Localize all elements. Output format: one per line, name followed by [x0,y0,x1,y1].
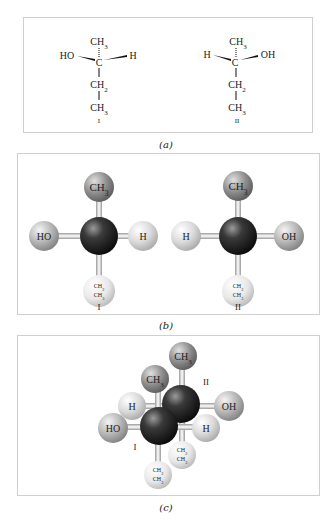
panel-b: CH3 HO H CH2 CH3 I CH3 H OH CH2 CH3 II [29,171,304,312]
isomer-label: I [98,302,101,312]
central-carbon: C [232,57,239,68]
back-hydroxyl-label: OH [222,401,236,412]
isomer-label: I [98,117,101,125]
hydrogen-atom: H [129,50,136,61]
caption-c: (c) [159,502,172,513]
methyl-group-bottom: CH3 [228,102,246,117]
carbon-ball [219,217,257,255]
isomer-label: II [235,302,241,312]
panel-c: CH3 CH3 II H OH HO H I CH2 CH3 CH2 CH3 [98,342,244,489]
back-ethyl-ball [168,441,196,469]
front-hydroxyl-label: HO [106,423,120,434]
methylene-group: CH2 [228,79,246,94]
hydroxyl-group: HO [60,50,74,61]
hydroxyl-label: OH [282,231,296,242]
wedge-bond-right [104,55,127,60]
hydrogen-label: H [139,231,146,242]
hydrogen-atom: H [203,49,210,60]
panel-a: CH3 C HO H CH2 CH3 I CH3 C H OH CH2 CH3 [60,36,275,125]
caption-a: (a) [159,139,173,150]
caption-b: (b) [159,320,173,331]
wedge-bond-left [77,56,95,61]
methyl-group-top: CH3 [229,36,247,51]
ball-stick-model-I: CH3 HO H CH2 CH3 I [29,172,158,312]
front-hydrogen-label: H [202,423,209,434]
central-carbon: C [96,57,103,68]
front-ethyl-ball [144,461,172,489]
ball-stick-model-II: CH3 H OH CH2 CH3 II [171,171,304,312]
back-hydrogen-label: H [128,401,135,412]
wedge-bond-right [240,55,258,60]
wedge-bond-left [213,55,231,61]
isomer-label: II [235,117,240,125]
front-carbon-ball [140,407,178,445]
hydrogen-label: H [182,231,189,242]
methyl-group-bottom: CH3 [90,102,108,117]
molecule-diagram: CH3 C HO H CH2 CH3 I CH3 C H OH CH2 CH3 [0,0,332,521]
isomer-label-II: II [203,377,209,387]
hydroxyl-label: HO [37,231,51,242]
isomer-label-I: I [134,442,137,452]
hydroxyl-group: OH [261,49,275,60]
structure-II: CH3 C H OH CH2 CH3 II [203,36,275,125]
carbon-ball [80,217,118,255]
structure-I: CH3 C HO H CH2 CH3 I [60,36,137,125]
